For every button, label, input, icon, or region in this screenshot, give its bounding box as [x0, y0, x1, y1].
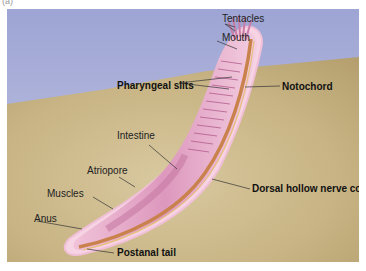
label-pharyngeal-slits: Pharyngeal slits — [117, 81, 194, 91]
label-anus: Anus — [34, 214, 57, 224]
label-postanal-tail: Postanal tail — [117, 248, 176, 258]
label-intestine: Intestine — [117, 131, 155, 141]
label-dorsal-hollow-nerve-cord: Dorsal hollow nerve cord — [252, 184, 359, 194]
lancelet-illustration — [7, 9, 359, 262]
label-notochord: Notochord — [282, 82, 333, 92]
label-tentacles: Tentacles — [222, 14, 264, 24]
label-mouth: Mouth — [222, 33, 250, 43]
panel-letter: (a) — [2, 0, 13, 6]
label-atriopore: Atriopore — [87, 166, 128, 176]
diagram-panel: Tentacles Mouth Pharyngeal slits Notocho… — [7, 9, 359, 262]
label-muscles: Muscles — [47, 189, 84, 199]
